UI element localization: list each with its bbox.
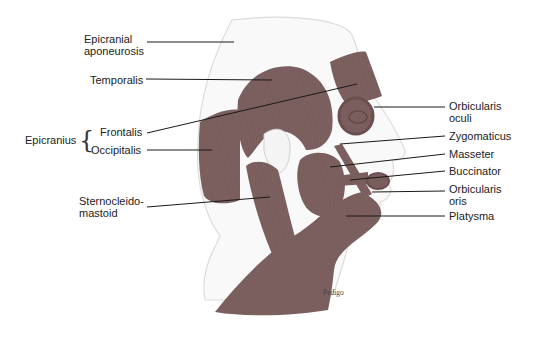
label-occipitalis: Occipitalis [91, 144, 141, 156]
occipitalis-muscle [199, 110, 240, 204]
orbicularis-oris-muscle [367, 173, 389, 189]
illustrator-credit: Pedigo [323, 288, 344, 297]
label-masseter: Masseter [449, 148, 494, 160]
label-epicranius: Epicranius [25, 134, 76, 146]
label-sternocleidomastoid: Sternocleido-mastoid [79, 195, 144, 219]
label-platysma: Platysma [449, 210, 494, 222]
label-frontalis: Frontalis [100, 126, 142, 138]
orbicularis-oculi-muscle [339, 98, 373, 134]
label-temporalis: Temporalis [90, 74, 143, 86]
label-buccinator: Buccinator [449, 165, 501, 177]
label-orbicularis-oris: Orbicularisoris [449, 183, 502, 207]
label-epicranial-aponeurosis: Epicranialaponeurosis [84, 33, 144, 57]
label-zygomaticus: Zygomaticus [449, 130, 511, 142]
label-orbicularis-oculi: Orbicularisoculi [449, 100, 502, 124]
